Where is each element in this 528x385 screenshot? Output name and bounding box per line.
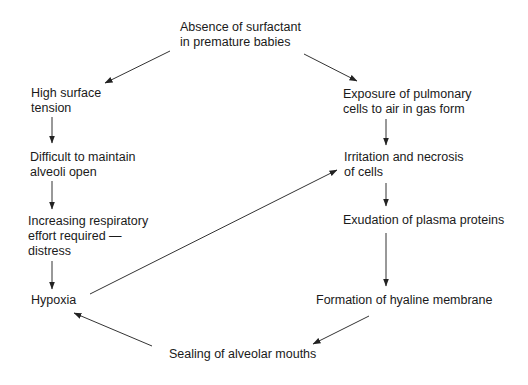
node-line: Difficult to maintain bbox=[30, 150, 135, 165]
node-line: Exudation of plasma proteins bbox=[343, 213, 504, 228]
node-exudation-of-plasma-proteins: Exudation of plasma proteins bbox=[343, 213, 504, 228]
arrow-absence-to-exposure bbox=[304, 54, 357, 81]
node-hypoxia: Hypoxia bbox=[31, 293, 76, 308]
node-line: distress bbox=[28, 244, 148, 259]
node-increasing-respiratory-effort: Increasing respiratory effort required —… bbox=[28, 214, 148, 259]
node-line: of cells bbox=[344, 165, 464, 180]
node-line: in premature babies bbox=[180, 35, 301, 50]
node-line: Absence of surfactant bbox=[180, 20, 301, 35]
node-line: tension bbox=[31, 101, 101, 116]
node-irritation-and-necrosis: Irritation and necrosis of cells bbox=[344, 150, 464, 180]
node-line: Increasing respiratory bbox=[28, 214, 148, 229]
node-line: Hypoxia bbox=[31, 293, 76, 308]
node-line: effort required — bbox=[28, 229, 148, 244]
node-line: cells to air in gas form bbox=[343, 102, 472, 117]
node-line: Exposure of pulmonary bbox=[343, 87, 472, 102]
node-high-surface-tension: High surface tension bbox=[31, 86, 101, 116]
node-exposure-of-pulmonary-cells: Exposure of pulmonary cells to air in ga… bbox=[343, 87, 472, 117]
node-line: High surface bbox=[31, 86, 101, 101]
arrow-absence-to-surface-tension bbox=[105, 51, 170, 83]
node-difficult-to-maintain: Difficult to maintain alveoli open bbox=[30, 150, 135, 180]
node-line: Formation of hyaline membrane bbox=[316, 293, 492, 308]
node-line: alveoli open bbox=[30, 165, 135, 180]
node-line: Irritation and necrosis bbox=[344, 150, 464, 165]
node-absence-of-surfactant: Absence of surfactant in premature babie… bbox=[180, 20, 301, 50]
flow-diagram: Absence of surfactant in premature babie… bbox=[0, 0, 528, 385]
node-line: Sealing of alveolar mouths bbox=[169, 347, 316, 362]
diagram-connectors bbox=[0, 0, 528, 385]
arrow-sealing-to-hypoxia bbox=[74, 313, 152, 346]
node-formation-of-hyaline-membrane: Formation of hyaline membrane bbox=[316, 293, 492, 308]
arrow-formation-to-sealing bbox=[313, 316, 369, 344]
node-sealing-of-alveolar-mouths: Sealing of alveolar mouths bbox=[169, 347, 316, 362]
